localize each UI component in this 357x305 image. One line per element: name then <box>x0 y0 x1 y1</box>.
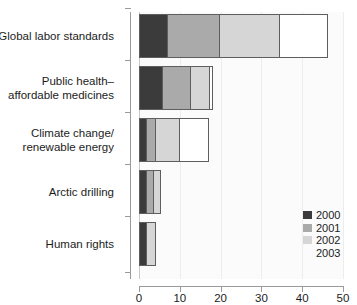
category-tick <box>125 164 131 165</box>
bar-segment-2002[interactable] <box>146 222 156 266</box>
category-tick <box>125 60 131 61</box>
legend-item-2001[interactable]: 2001 <box>303 222 340 235</box>
gridline <box>343 12 344 279</box>
category-label-1: Global labor standards <box>0 29 114 43</box>
legend-label-2003: 2003 <box>316 247 340 260</box>
legend-swatch-2003 <box>303 249 312 257</box>
category-label-line: Climate change/ <box>0 126 114 140</box>
legend-swatch-2001 <box>303 224 312 232</box>
category-label-line: Global labor standards <box>0 29 114 43</box>
bar-segment-2001[interactable] <box>162 66 191 110</box>
legend-swatch-2002 <box>303 236 312 244</box>
legend-label-2000: 2000 <box>316 209 340 222</box>
bar-segment-2003[interactable] <box>279 14 328 58</box>
category-tick <box>125 272 131 273</box>
legend-label-2002: 2002 <box>316 234 340 247</box>
bar-segment-2003[interactable] <box>179 118 210 162</box>
bar-row <box>139 14 343 58</box>
category-label-5: Human rights <box>0 237 114 251</box>
legend-item-2002[interactable]: 2002 <box>303 234 340 247</box>
bar-row <box>139 66 343 110</box>
category-tick <box>125 8 131 9</box>
bar-segment-2002[interactable] <box>155 118 179 162</box>
legend-swatch-2000 <box>303 211 312 219</box>
stacked-bar[interactable] <box>139 14 328 58</box>
category-label-line: Human rights <box>0 237 114 251</box>
bar-segment-2000[interactable] <box>139 14 168 58</box>
bar-segment-2002[interactable] <box>153 170 161 214</box>
stacked-bar-chart: Global labor standardsPublic health–affo… <box>0 0 357 305</box>
category-label-line: Public health– <box>0 74 114 88</box>
x-axis-line <box>139 286 343 287</box>
bar-segment-2003[interactable] <box>209 66 213 110</box>
category-label-line: affordable medicines <box>0 88 114 102</box>
stacked-bar[interactable] <box>139 170 161 214</box>
bar-row <box>139 118 343 162</box>
bar-segment-2000[interactable] <box>139 66 163 110</box>
x-tick-label: 20 <box>207 292 235 304</box>
category-label-line: Arctic drilling <box>0 185 114 199</box>
stacked-bar[interactable] <box>139 66 213 110</box>
bar-segment-2002[interactable] <box>190 66 210 110</box>
bar-row <box>139 170 343 214</box>
stacked-bar[interactable] <box>139 222 156 266</box>
legend-label-2001: 2001 <box>316 222 340 235</box>
clipped-caption-text <box>0 0 357 4</box>
category-label-2: Public health–affordable medicines <box>0 74 114 102</box>
x-tick-label: 10 <box>166 292 194 304</box>
legend-item-2003[interactable]: 2003 <box>303 247 340 260</box>
category-label-4: Arctic drilling <box>0 185 114 199</box>
legend: 2000200120022003 <box>303 209 340 259</box>
category-label-line: renewable energy <box>0 140 114 154</box>
bar-segment-2001[interactable] <box>167 14 220 58</box>
x-tick-label: 30 <box>247 292 275 304</box>
x-tick-label: 40 <box>288 292 316 304</box>
category-tick <box>125 216 131 217</box>
legend-item-2000[interactable]: 2000 <box>303 209 340 222</box>
category-tick <box>125 112 131 113</box>
x-tick-label: 0 <box>125 292 153 304</box>
category-axis-spine <box>130 12 131 279</box>
stacked-bar[interactable] <box>139 118 209 162</box>
bar-segment-2002[interactable] <box>219 14 280 58</box>
category-label-3: Climate change/renewable energy <box>0 126 114 154</box>
x-tick-label: 50 <box>329 292 357 304</box>
